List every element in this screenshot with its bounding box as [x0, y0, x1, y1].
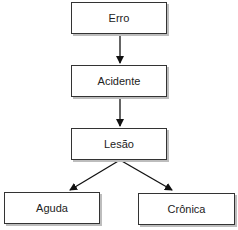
- node-label: Acidente: [98, 75, 141, 87]
- node-label: Lesão: [104, 138, 134, 150]
- node-lesao: Lesão: [71, 128, 167, 160]
- node-label: Crônica: [168, 203, 206, 215]
- node-label: Erro: [109, 12, 130, 24]
- node-label: Aguda: [36, 202, 68, 214]
- node-erro: Erro: [71, 2, 167, 34]
- node-acidente: Acidente: [71, 65, 167, 97]
- arrow-lesao-cronica: [120, 160, 172, 190]
- arrow-lesao-aguda: [70, 160, 120, 190]
- node-aguda: Aguda: [4, 192, 100, 224]
- node-cronica: Crônica: [138, 193, 235, 225]
